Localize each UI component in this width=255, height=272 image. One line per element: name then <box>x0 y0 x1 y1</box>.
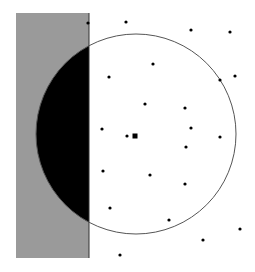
data-point <box>233 74 236 77</box>
data-point <box>143 102 146 105</box>
data-point <box>167 218 170 221</box>
data-point <box>218 135 221 138</box>
data-point <box>201 238 204 241</box>
data-point <box>151 62 154 65</box>
point-set <box>86 20 241 256</box>
data-point <box>101 169 104 172</box>
data-point <box>118 253 121 256</box>
data-point <box>183 182 186 185</box>
data-point <box>238 227 241 230</box>
data-point <box>218 78 221 81</box>
data-point <box>189 28 192 31</box>
data-point <box>183 106 186 109</box>
center-marker <box>133 134 138 139</box>
data-point <box>108 206 111 209</box>
data-point <box>184 145 187 148</box>
data-point <box>107 75 110 78</box>
data-point <box>124 20 127 23</box>
diagram-canvas <box>0 0 255 272</box>
data-point <box>125 134 128 137</box>
data-point <box>86 21 89 24</box>
data-point <box>148 173 151 176</box>
data-point <box>228 30 231 33</box>
data-point <box>189 126 192 129</box>
data-point <box>100 127 103 130</box>
